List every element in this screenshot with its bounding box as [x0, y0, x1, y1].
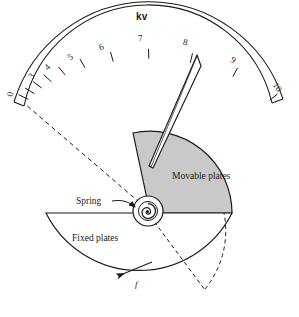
fixed-plates-label: Fixed plates	[72, 233, 118, 243]
scale-cap-right	[272, 99, 283, 103]
hub-center-dot	[146, 210, 149, 213]
movable-plates-label: Movable plates	[172, 171, 230, 181]
tick-label-7: 7	[138, 33, 143, 43]
figure-canvas: kv 0 3 4 5 6 7 8 9 10 Movable plates Fix…	[0, 0, 299, 317]
tick-3	[44, 75, 52, 82]
diagram-svg	[0, 0, 299, 317]
tick-8	[190, 53, 192, 63]
dashed-zero-reference	[25, 104, 146, 208]
tick-6	[111, 52, 114, 62]
scale-units-title: kv	[136, 11, 148, 22]
tick-1	[25, 88, 34, 94]
tick-5	[80, 59, 85, 68]
tick-9	[233, 68, 238, 77]
scale-ticks	[19, 49, 278, 101]
hub-assembly	[133, 196, 163, 226]
tick-4	[59, 67, 66, 75]
spring-label: Spring	[76, 196, 101, 206]
scale-cap-left	[14, 102, 24, 106]
spring-leader-line	[112, 200, 135, 207]
tick-2	[33, 82, 42, 88]
force-label: f	[135, 279, 138, 289]
